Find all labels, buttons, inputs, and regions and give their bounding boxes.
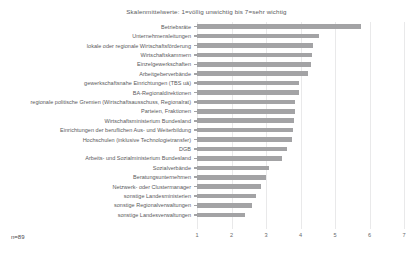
category-label-row: Beratungsunternehmen [0,173,194,182]
axis-tick-mark [194,45,197,47]
category-label: Netzwerk- oder Clustermanager [112,184,191,190]
axis-tick-mark [194,214,197,216]
bar-row [197,69,404,78]
axis-tick-mark [194,186,197,188]
category-label: regionale politische Gremien (Wirtschaft… [30,99,191,105]
axis-tick-mark [194,205,197,207]
category-label-row: sonstige Regionalverwaltungen [0,201,194,210]
bar [197,100,295,105]
axis-tick-mark [194,64,197,66]
bar-row [197,116,404,125]
category-label: Betriebsräte [161,24,191,30]
axis-tick-mark [194,92,197,94]
category-label-row: gewerkschaftsnahe Einrichtungen (TBS uä) [0,78,194,87]
bar-row [197,191,404,200]
bar-row [197,78,404,87]
category-label: Einzelgewerkschaften [137,61,191,67]
bar-row [197,50,404,59]
category-label: DGB [179,146,191,152]
gridline [404,22,405,229]
category-label-row: sonstige Landesverwaltungen [0,210,194,219]
category-label-row: Arbeitgeberverbände [0,69,194,78]
category-label: Sozialverbände [153,165,191,171]
bar-row [197,107,404,116]
axis-tick-mark [194,148,197,150]
bar-row [197,125,404,134]
category-label-row: Unternehmensleitungen [0,31,194,40]
category-label: Arbeitgeberverbände [139,71,191,77]
category-label: Arbeits- und Sozialministerium Bundeslan… [85,155,191,161]
bar [197,147,287,152]
category-label-row: Wirtschaftsministerium Bundesland [0,116,194,125]
chart-title: Skalenmittelwerte: 1=völlig unwichtig bi… [0,8,413,15]
category-label-row: lokale oder regionale Wirtschaftsförderu… [0,41,194,50]
bar [197,175,266,180]
bar-row [197,41,404,50]
category-axis-labels: BetriebsräteUnternehmensleitungenlokale … [0,22,194,229]
category-label-row: Arbeits- und Sozialministerium Bundeslan… [0,154,194,163]
axis-tick-mark [194,82,197,84]
category-label-row: BA-Regionaldirektionen [0,88,194,97]
x-tick-label: 1 [195,232,198,238]
bar [197,43,313,48]
bar [197,53,312,58]
axis-tick-mark [194,129,197,131]
bar [197,90,299,95]
axis-tick-mark [194,35,197,37]
category-label: Wirtschaftskammern [141,52,191,58]
category-label-row: Sozialverbände [0,163,194,172]
category-label-row: Einzelgewerkschaften [0,60,194,69]
x-tick-label: 3 [264,232,267,238]
category-label: Hochschulen (inklusive Technologietransf… [83,137,191,143]
bar [197,156,282,161]
axis-tick-mark [194,73,197,75]
bar-row [197,210,404,219]
category-label: sonstige Regionalverwaltungen [114,202,191,208]
category-label-row: sonstige Landesministerien [0,191,194,200]
plot-area [197,22,404,229]
bar-row [197,88,404,97]
category-label-row: Hochschulen (inklusive Technologietransf… [0,135,194,144]
axis-tick-mark [194,120,197,122]
axis-tick-mark [194,26,197,28]
bar-row [197,163,404,172]
bar-row [197,173,404,182]
bar [197,118,294,123]
category-label-row: DGB [0,144,194,153]
x-tick-label: 5 [333,232,336,238]
bar [197,166,269,171]
category-label-row: regionale politische Gremien (Wirtschaft… [0,97,194,106]
bar [197,213,245,218]
category-label: gewerkschaftsnahe Einrichtungen (TBS uä) [84,80,191,86]
bar [197,34,319,39]
category-label: Einrichtungen der beruflichen Aus- und W… [60,127,191,133]
bar-row [197,135,404,144]
bar [197,81,299,86]
x-axis: 1234567 [197,232,404,246]
category-label-row: Netzwerk- oder Clustermanager [0,182,194,191]
category-label: BA-Regionaldirektionen [133,90,191,96]
category-label: sonstige Landesverwaltungen [118,212,191,218]
category-label-row: Einrichtungen der beruflichen Aus- und W… [0,125,194,134]
bar-row [197,154,404,163]
sample-size-annotation: n=89 [11,234,25,240]
axis-tick-mark [194,111,197,113]
bar [197,203,252,208]
axis-tick-mark [194,54,197,56]
bar [197,71,308,76]
bar [197,137,292,142]
bar-row [197,201,404,210]
bar-row [197,144,404,153]
axis-tick-mark [194,101,197,103]
axis-tick-mark [194,139,197,141]
bar [197,24,361,29]
bar-series [197,22,404,229]
axis-tick-mark [194,158,197,160]
axis-tick-mark [194,195,197,197]
bar-row [197,97,404,106]
axis-tick-mark [194,167,197,169]
bar [197,194,256,199]
category-label-row: Betriebsräte [0,22,194,31]
x-tick-label: 2 [230,232,233,238]
bar [197,184,261,189]
